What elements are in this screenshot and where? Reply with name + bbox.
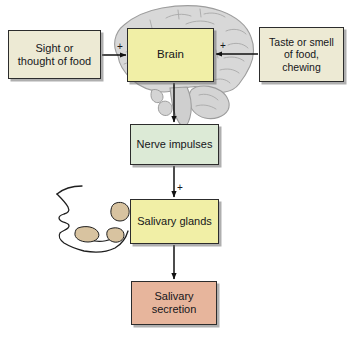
node-label: Salivary glands xyxy=(134,215,215,228)
node-taste-or-smell-of-food[interactable]: Taste or smell of food, chewing xyxy=(259,27,344,82)
node-sight-or-thought-of-food[interactable]: Sight or thought of food xyxy=(8,30,101,79)
node-brain[interactable]: Brain xyxy=(127,28,214,82)
node-salivary-secretion[interactable]: Salivary secretion xyxy=(131,281,217,325)
node-label: Salivary secretion xyxy=(149,290,200,316)
node-label: Sight or thought of food xyxy=(15,42,94,68)
node-label: Taste or smell of food, chewing xyxy=(266,36,337,73)
node-label: Nerve impulses xyxy=(134,138,216,151)
node-nerve-impulses[interactable]: Nerve impulses xyxy=(130,124,219,165)
node-label: Brain xyxy=(154,48,187,62)
plus-sign-right-stimulus: + xyxy=(220,41,226,51)
diagram-canvas: Sight or thought of food Brain Taste or … xyxy=(0,0,351,352)
plus-sign-left-stimulus: + xyxy=(117,42,123,52)
node-salivary-glands[interactable]: Salivary glands xyxy=(130,199,219,244)
head-profile-with-salivary-glands-illustration xyxy=(57,186,129,252)
plus-sign-gland-stimulus: + xyxy=(177,183,183,193)
